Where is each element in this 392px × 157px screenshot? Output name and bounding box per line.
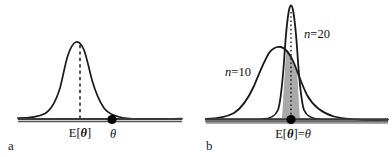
panel-a-expectation-suffix: ]: [87, 126, 91, 140]
panel-b-label-n20-value: =20: [310, 27, 330, 41]
panel-b-expectation-prefix: E[: [275, 127, 287, 141]
panel-b-label-n10-value: =10: [231, 65, 251, 79]
statistics-estimator-figure: E[θ] θ a: [0, 0, 392, 157]
panel-b-letter-label: b: [206, 138, 213, 153]
panel-a-letter-label: a: [8, 138, 14, 153]
panel-a-expectation-label: E[θ]: [69, 126, 91, 140]
panel-a-theta-marker-dot: [107, 115, 116, 124]
figure-background: [0, 0, 392, 157]
panel-b-expectation-label: E[θ]=θ: [275, 127, 311, 141]
panel-b-theta-marker-dot: [286, 115, 295, 124]
panel-b-expectation-theta-plain: θ: [305, 127, 311, 141]
panel-a-expectation-prefix: E[: [69, 126, 81, 140]
panel-b-label-n10: n=10: [225, 65, 251, 79]
panel-b-label-n20: n=20: [304, 27, 330, 41]
panel-a-theta-label: θ: [110, 127, 116, 141]
panel-b-expectation-equals: ]=: [293, 127, 304, 141]
